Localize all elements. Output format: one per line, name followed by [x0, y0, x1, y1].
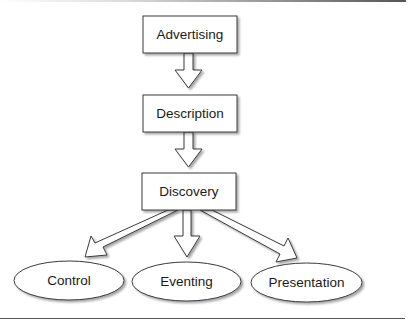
ellipse-presentation-label: Presentation [269, 275, 345, 290]
ellipse-eventing-label: Eventing [160, 274, 213, 289]
ellipse-control-label: Control [47, 273, 91, 288]
arrow-discovery-to-eventing [174, 210, 200, 257]
arrow-description-to-discovery [175, 132, 202, 167]
top-rule [0, 0, 406, 2]
box-discovery-label: Discovery [159, 184, 219, 199]
arrow-discovery-to-presentation [200, 210, 297, 262]
box-description-label: Description [156, 106, 224, 121]
diagram-canvas: Advertising Description Discovery Contro… [0, 0, 409, 326]
arrow-advertising-to-description [175, 53, 202, 88]
arrow-discovery-to-control [85, 210, 178, 257]
box-advertising-label: Advertising [157, 27, 224, 42]
